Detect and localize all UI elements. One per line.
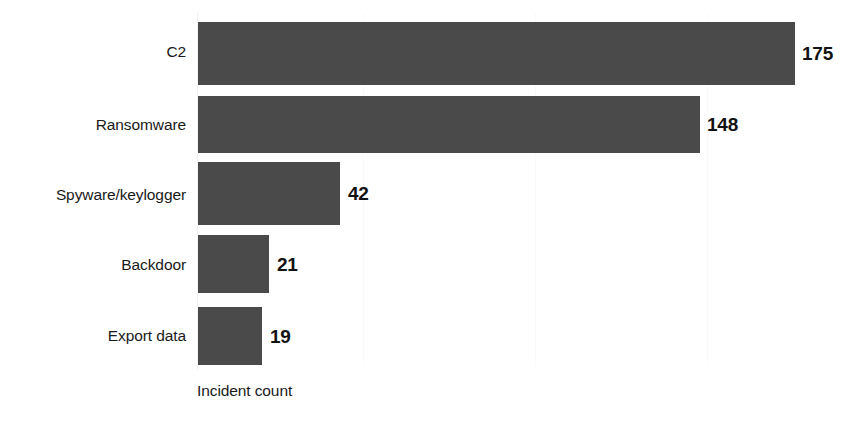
bar-c2[interactable] [198, 22, 795, 85]
bar-ransomware[interactable] [198, 96, 700, 153]
category-axis: C2 Ransomware Spyware/keylogger Backdoor… [0, 0, 186, 425]
x-axis-title: Incident count [197, 382, 292, 400]
category-label-export-data: Export data [108, 327, 186, 345]
bar-backdoor[interactable] [198, 235, 269, 293]
category-label-backdoor: Backdoor [121, 256, 186, 274]
category-label-spyware-keylogger: Spyware/keylogger [56, 186, 186, 204]
bar-chart: C2 Ransomware Spyware/keylogger Backdoor… [0, 0, 852, 425]
category-label-c2: C2 [166, 43, 186, 61]
bar-export-data[interactable] [198, 307, 262, 365]
bar-value-backdoor: 21 [277, 254, 298, 276]
plot-area: 175 148 42 21 19 [198, 12, 838, 372]
bar-value-spyware-keylogger: 42 [348, 183, 369, 205]
bar-value-export-data: 19 [270, 326, 291, 348]
bar-value-c2: 175 [802, 43, 833, 65]
bar-spyware-keylogger[interactable] [198, 162, 340, 225]
bar-value-ransomware: 148 [707, 114, 738, 136]
category-label-ransomware: Ransomware [96, 116, 186, 134]
